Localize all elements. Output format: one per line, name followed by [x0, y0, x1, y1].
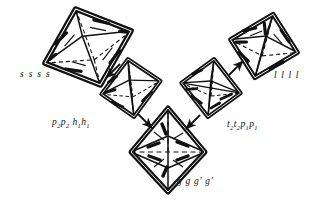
octahedron-p2p2h1h1: [98, 56, 164, 120]
label-part-sub: 1: [254, 124, 258, 131]
crystal-form-figure: s s s s l l l l p2p2 h1h1 t2t2p1p1 g g g…: [0, 0, 312, 200]
arrow-p2p2h1h1-to-gggg: [138, 114, 152, 128]
arrow-t2t2p1p1-to-gggg: [186, 115, 200, 129]
label-llll: l l l l: [274, 70, 299, 80]
figure-canvas: [0, 0, 312, 200]
label-p2p2h1h1: p2p2 h1h1: [52, 117, 90, 129]
label-part-sub: 1: [86, 122, 90, 129]
label-part-sub: 2: [66, 122, 70, 129]
label-gggg: g g g' g': [177, 176, 214, 186]
octahedron-t2t2p1p1: [178, 56, 244, 120]
octahedron-ssss: [32, 0, 144, 99]
arrow-llll-to-t2t2p1p1: [229, 61, 243, 75]
face-striations-thin-ssss: [62, 23, 116, 70]
label-ssss: s s s s: [20, 69, 51, 79]
label-t2t2p1p1: t2t2p1p1: [227, 119, 258, 131]
